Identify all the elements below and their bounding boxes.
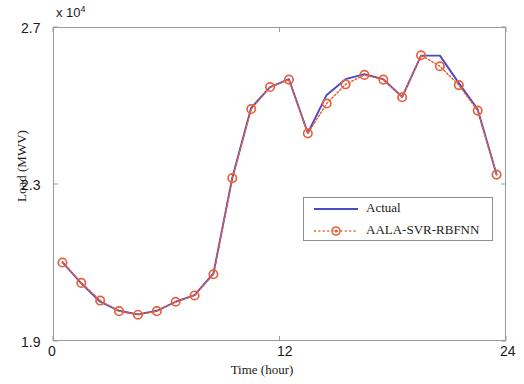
legend-label-actual: Actual <box>366 200 401 216</box>
x-axis-tick-right: 24 <box>500 343 516 359</box>
legend-entry-prediction: AALA-SVR-RBFNN <box>304 220 492 242</box>
y-axis-tick-top: 2.7 <box>21 20 40 36</box>
y-axis-label: Load (MWV) <box>14 106 30 226</box>
legend-entry-actual: Actual <box>304 198 492 220</box>
y-axis-exponent-prefix: x 10 <box>56 5 81 20</box>
legend-label-prediction: AALA-SVR-RBFNN <box>366 222 479 238</box>
y-axis-tick-bottom: 1.9 <box>21 334 40 350</box>
x-axis-tick-left: 0 <box>48 343 56 359</box>
chart-legend: Actual AALA-SVR-RBFNN <box>303 197 493 241</box>
legend-swatch-prediction <box>312 220 360 242</box>
y-axis-exponent: x 104 <box>56 4 86 20</box>
plot-area <box>53 27 506 341</box>
legend-swatch-actual <box>312 198 360 220</box>
x-axis-tick-mid: 12 <box>277 343 293 359</box>
x-axis-label: Time (hour) <box>0 362 524 378</box>
load-forecast-chart: x 104 2.7 2.3 1.9 0 12 24 Load (MWV) Tim… <box>0 0 524 384</box>
y-axis-exponent-power: 4 <box>81 4 86 14</box>
